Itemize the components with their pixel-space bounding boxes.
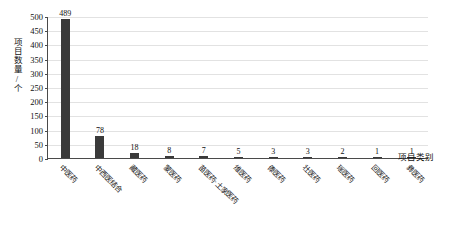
- bar-value-label: 5: [237, 148, 241, 156]
- x-axis-category-label: 瑶医药: [335, 163, 356, 184]
- bar-value-label: 489: [59, 10, 71, 18]
- bar[interactable]: 1: [373, 157, 382, 158]
- x-axis-category-label: 中医药: [58, 163, 79, 184]
- x-axis-category-label: 蒙医药: [162, 163, 183, 184]
- y-axis-tick: [45, 131, 48, 132]
- gridline: [48, 102, 428, 103]
- bar[interactable]: 5: [234, 157, 243, 158]
- bar-value-label: 1: [375, 148, 379, 156]
- bar-value-label: 18: [131, 144, 139, 152]
- bar[interactable]: 8: [165, 156, 174, 158]
- y-axis-tick: [45, 17, 48, 18]
- x-axis-category-label: 回医药: [370, 163, 391, 184]
- x-axis-category-label: 壮医药: [300, 163, 321, 184]
- x-axis-title: 项目类别: [398, 152, 434, 162]
- x-axis-category-label: 中西医结合: [93, 163, 124, 194]
- bar-value-label: 2: [340, 148, 344, 156]
- bar-value-label: 8: [167, 147, 171, 155]
- y-axis-title: 项目数量/个: [6, 38, 22, 93]
- x-axis-category-label: 藏医药: [127, 163, 148, 184]
- gridline: [48, 116, 428, 117]
- bar[interactable]: 489: [61, 19, 70, 158]
- y-axis-tick: [45, 60, 48, 61]
- bar[interactable]: 2: [338, 157, 347, 158]
- y-axis-tick-label: 0: [39, 155, 43, 164]
- y-axis-tick-label: 500: [30, 13, 43, 22]
- y-axis-tick: [45, 145, 48, 146]
- x-axis-category-label: 彝医药: [404, 163, 425, 184]
- bar[interactable]: 7: [199, 156, 208, 158]
- y-axis-tick-label: 250: [30, 84, 43, 93]
- gridline: [48, 131, 428, 132]
- bar[interactable]: 3: [269, 157, 278, 158]
- y-axis-tick-label: 100: [30, 126, 43, 135]
- gridline: [48, 31, 428, 32]
- y-axis-tick: [45, 45, 48, 46]
- bar-value-label: 78: [96, 127, 104, 135]
- y-axis-tick-label: 150: [30, 112, 43, 121]
- y-axis-tick-label: 450: [30, 27, 43, 36]
- bar[interactable]: 3: [303, 157, 312, 158]
- y-axis-tick: [45, 159, 48, 160]
- y-axis-tick-label: 200: [30, 98, 43, 107]
- bar-value-label: 3: [306, 148, 310, 156]
- y-axis-tick: [45, 102, 48, 103]
- gridline: [48, 45, 428, 46]
- plot-area: 050100150200250300350400450500489中医药78中西…: [47, 17, 428, 159]
- y-axis-tick: [45, 74, 48, 75]
- y-axis-tick: [45, 88, 48, 89]
- gridline: [48, 17, 428, 18]
- bar-value-label: 3: [271, 148, 275, 156]
- gridline: [48, 74, 428, 75]
- y-axis-tick: [45, 116, 48, 117]
- y-axis-tick-label: 300: [30, 70, 43, 79]
- x-axis-category-label: 傣医药: [266, 163, 287, 184]
- x-axis-category-label: 维医药: [231, 163, 252, 184]
- bar-chart: 项目数量/个 050100150200250300350400450500489…: [0, 0, 455, 241]
- y-axis-tick-label: 400: [30, 41, 43, 50]
- y-axis-tick: [45, 31, 48, 32]
- bar-value-label: 7: [202, 147, 206, 155]
- bar[interactable]: 78: [95, 136, 104, 158]
- bar[interactable]: 18: [130, 153, 139, 158]
- y-axis-tick-label: 350: [30, 55, 43, 64]
- gridline: [48, 60, 428, 61]
- y-axis-tick-label: 50: [35, 141, 44, 150]
- gridline: [48, 88, 428, 89]
